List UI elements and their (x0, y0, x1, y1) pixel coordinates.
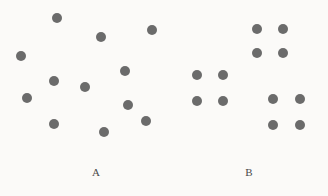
cluster-label-b: B (245, 167, 253, 178)
dot-array-figure: AB (0, 0, 328, 196)
panel-labels: AB (0, 0, 328, 196)
cluster-label-a: A (92, 167, 100, 178)
